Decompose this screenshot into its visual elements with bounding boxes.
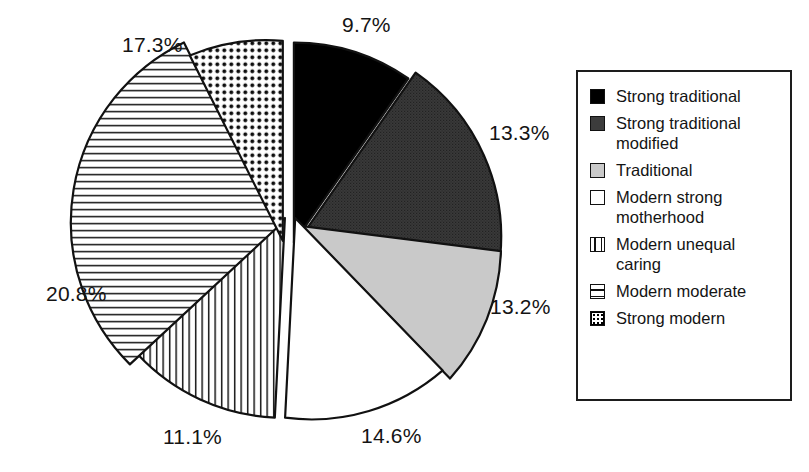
vertical-lines-swatch-icon bbox=[590, 237, 605, 252]
legend-list: Strong traditional Strong traditional mo… bbox=[590, 86, 780, 328]
legend-item-label: Traditional bbox=[616, 160, 692, 180]
legend-item-label: Strong traditional modified bbox=[616, 113, 780, 153]
horizontal-lines-swatch-icon bbox=[590, 284, 605, 299]
slice-label-modern-unequal-caring: 11.1% bbox=[163, 425, 222, 449]
dark-stipple-swatch-icon bbox=[590, 116, 605, 131]
solid-black-swatch-icon bbox=[590, 89, 605, 104]
dot-grid-swatch-icon bbox=[590, 311, 605, 326]
legend-item-label: Strong traditional bbox=[616, 86, 741, 106]
legend-item-label: Strong modern bbox=[616, 308, 725, 328]
legend-item-label: Modern strong motherhood bbox=[616, 187, 780, 227]
legend-item-modern-moderate: Modern moderate bbox=[590, 281, 780, 301]
legend-item-strong-traditional-modified: Strong traditional modified bbox=[590, 113, 780, 153]
pie-chart-figure: 9.7% 13.3% 13.2% 14.6% 11.1% 20.8% 17.3%… bbox=[0, 0, 809, 472]
legend-item-label: Modern moderate bbox=[616, 281, 746, 301]
chart-legend: Strong traditional Strong traditional mo… bbox=[576, 70, 792, 401]
slice-label-strong-traditional: 9.7% bbox=[342, 13, 391, 37]
slice-label-strong-traditional-modified: 13.3% bbox=[489, 121, 550, 145]
pie-plot-area: 9.7% 13.3% 13.2% 14.6% 11.1% 20.8% 17.3% bbox=[18, 8, 558, 464]
pie-svg bbox=[18, 8, 558, 464]
slice-label-modern-strong-motherhood: 14.6% bbox=[361, 424, 422, 448]
slice-label-modern-moderate: 20.8% bbox=[46, 282, 107, 306]
legend-item-strong-traditional: Strong traditional bbox=[590, 86, 780, 106]
legend-item-strong-modern: Strong modern bbox=[590, 308, 780, 328]
slice-label-strong-modern: 17.3% bbox=[122, 33, 183, 57]
slice-label-traditional: 13.2% bbox=[490, 295, 551, 319]
white-swatch-icon bbox=[590, 190, 605, 205]
legend-item-modern-unequal-caring: Modern unequal caring bbox=[590, 234, 780, 274]
legend-item-traditional: Traditional bbox=[590, 160, 780, 180]
light-gray-swatch-icon bbox=[590, 163, 605, 178]
legend-item-modern-strong-motherhood: Modern strong motherhood bbox=[590, 187, 780, 227]
legend-item-label: Modern unequal caring bbox=[616, 234, 780, 274]
